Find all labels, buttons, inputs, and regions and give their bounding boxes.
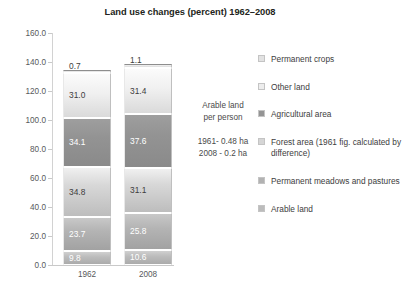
annotation-line-3: 1961- 0.48 ha <box>180 136 266 148</box>
legend-swatch-icon <box>258 55 265 62</box>
segment-value: 31.1 <box>125 186 146 194</box>
y-axis-label: 140.0 <box>26 58 47 67</box>
segment-value: 10.6 <box>125 253 146 261</box>
segment-permanent-meadows[interactable]: 25.8 <box>124 213 172 250</box>
legend-item-arable-land[interactable]: Arable land <box>258 204 403 216</box>
segment-arable-land[interactable]: 9.8 <box>63 251 111 265</box>
segment-permanent-meadows[interactable]: 23.7 <box>63 217 111 251</box>
segment-value: 23.7 <box>64 230 85 238</box>
segment-value: 37.6 <box>125 137 146 145</box>
chart-legend: Permanent crops Other land Agricultural … <box>258 54 403 231</box>
annotation-spacer <box>180 124 266 136</box>
x-axis-label-2008: 2008 <box>124 270 172 279</box>
legend-swatch-icon <box>258 138 265 145</box>
x-axis-line <box>52 265 174 266</box>
y-axis-label: 160.0 <box>26 29 47 38</box>
segment-value: 31.4 <box>125 87 146 95</box>
y-axis-label: 60.0 <box>30 174 46 183</box>
segment-forest-area[interactable]: 31.1 <box>124 168 172 213</box>
legend-item-permanent-crops[interactable]: Permanent crops <box>258 54 403 66</box>
segment-value: 34.1 <box>64 138 85 146</box>
bar-1962[interactable]: 0.7 31.0 34.1 34.8 23.7 9.8 <box>63 70 111 265</box>
y-axis-label: 0.0 <box>35 261 46 270</box>
y-axis-label: 80.0 <box>30 145 46 154</box>
legend-swatch-icon <box>258 83 265 90</box>
segment-value: 25.8 <box>125 227 146 235</box>
segment-arable-land[interactable]: 10.6 <box>124 250 172 265</box>
y-axis-label: 40.0 <box>30 203 46 212</box>
legend-label: Other land <box>271 82 310 94</box>
segment-value: 0.7 <box>64 62 81 70</box>
legend-swatch-icon <box>258 177 265 184</box>
segment-agricultural-area[interactable]: 34.1 <box>63 118 111 167</box>
segment-other-land[interactable]: 31.0 <box>63 73 111 118</box>
legend-swatch-icon <box>258 205 265 212</box>
chart-container: Land use changes (percent) 1962–2008 160… <box>0 0 407 298</box>
segment-value: 9.8 <box>64 254 81 262</box>
legend-item-agricultural-area[interactable]: Agricultural area <box>258 109 403 121</box>
annotation-arable-land-per-person: Arable land per person 1961- 0.48 ha 200… <box>180 100 266 160</box>
segment-agricultural-area[interactable]: 37.6 <box>124 114 172 168</box>
annotation-line-4: 2008 - 0.2 ha <box>180 148 266 160</box>
legend-label: Permanent meadows and pastures <box>271 176 400 188</box>
plot-area: 160.0 140.0 120.0 100.0 80.0 60.0 40.0 <box>52 33 174 265</box>
annotation-line-1: Arable land <box>180 100 266 112</box>
legend-label: Forest area (1961 fig. calculated by dif… <box>271 137 403 160</box>
y-axis-label: 120.0 <box>26 87 47 96</box>
bar-2008[interactable]: 1.1 31.4 37.6 31.1 25.8 10.6 <box>124 64 172 265</box>
annotation-line-2: per person <box>180 112 266 124</box>
legend-label: Agricultural area <box>271 109 331 121</box>
chart-title: Land use changes (percent) 1962–2008 <box>0 7 380 17</box>
x-axis-label-1962: 1962 <box>63 270 111 279</box>
legend-label: Arable land <box>271 204 313 216</box>
segment-value: 34.8 <box>64 188 85 196</box>
segment-value: 31.0 <box>64 91 85 99</box>
legend-swatch-icon <box>258 110 265 117</box>
legend-label: Permanent crops <box>271 54 334 66</box>
legend-item-forest-area[interactable]: Forest area (1961 fig. calculated by dif… <box>258 137 403 160</box>
y-axis-label: 20.0 <box>30 232 46 241</box>
y-axis-line <box>52 33 53 265</box>
legend-item-permanent-meadows[interactable]: Permanent meadows and pastures <box>258 176 403 188</box>
legend-item-other-land[interactable]: Other land <box>258 82 403 94</box>
y-axis-label: 100.0 <box>26 116 47 125</box>
segment-value: 1.1 <box>125 56 142 64</box>
segment-other-land[interactable]: 31.4 <box>124 68 172 114</box>
segment-forest-area[interactable]: 34.8 <box>63 167 111 217</box>
